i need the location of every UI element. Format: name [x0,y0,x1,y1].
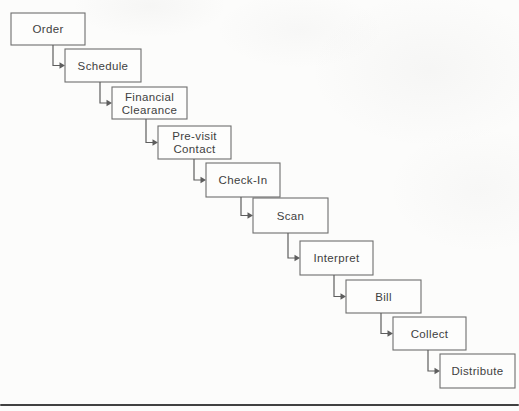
arrowhead-icon [435,368,441,375]
step-label: Schedule [78,60,129,72]
arrowhead-icon [201,177,207,184]
connector-interpret-to-bill [334,275,346,300]
connector-scan-to-interpret [288,233,300,261]
step-label: Interpret [314,252,360,264]
arrowhead-icon [153,139,159,146]
connector-bill-to-collect [381,313,393,337]
arrowhead-icon [295,255,301,262]
connector-collect-to-distribute [428,350,440,374]
arrowhead-icon [248,212,254,219]
arrowhead-icon [107,100,113,107]
connector-check-in-to-scan [241,197,253,219]
step-label: Check-In [219,174,268,186]
step-box-financial-clearance: FinancialClearance [112,87,187,119]
step-box-pre-visit-contact: Pre-visitContact [158,126,231,159]
step-box-distribute: Distribute [440,354,515,388]
connector-financial-clearance-to-pre-visit-contact [146,119,158,146]
step-box-collect: Collect [393,317,466,350]
step-box-interpret: Interpret [300,241,373,275]
step-box-schedule: Schedule [65,49,141,82]
connector-order-to-schedule [53,45,65,69]
workflow-cascade-diagram: OrderScheduleFinancialClearancePre-visit… [0,0,519,411]
scanned-page: OrderScheduleFinancialClearancePre-visit… [0,0,519,411]
connector-schedule-to-financial-clearance [100,82,112,106]
connector-pre-visit-contact-to-check-in [194,159,206,183]
arrowhead-icon [388,330,394,337]
step-label: Pre-visitContact [172,130,217,155]
arrowhead-icon [60,62,66,69]
step-label: Distribute [451,365,503,377]
step-label: Collect [411,328,449,340]
step-box-check-in: Check-In [206,163,280,197]
step-label: Scan [277,210,305,222]
step-label: Bill [375,291,392,303]
step-label: Order [32,23,63,35]
step-box-bill: Bill [346,280,421,313]
step-label: FinancialClearance [122,91,178,116]
step-box-order: Order [11,13,85,45]
step-box-scan: Scan [253,198,328,233]
arrowhead-icon [341,293,347,300]
